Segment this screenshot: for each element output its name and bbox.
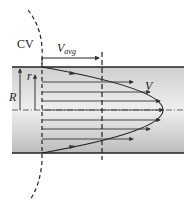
cv-label: CV (17, 37, 34, 51)
radius-r-label: r (27, 69, 32, 83)
pipe-flow-diagram: CV Vavg V R r (0, 0, 194, 202)
vavg-label: Vavg (57, 41, 76, 56)
radius-R-label: R (8, 90, 17, 104)
